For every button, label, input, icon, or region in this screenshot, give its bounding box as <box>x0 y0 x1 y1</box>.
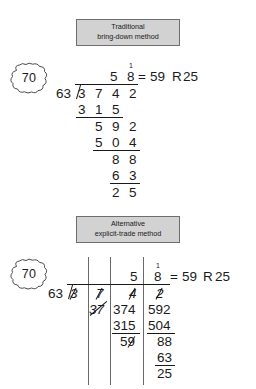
dividend-digit-4-top: 2 <box>129 87 137 101</box>
dividend-digit-2-top: 7 <box>95 87 103 101</box>
division-bar-bottom <box>67 284 170 285</box>
equals-sign-top: = <box>138 70 146 84</box>
page-badge-70-bottom: 70 <box>9 258 49 290</box>
column-rule-1 <box>88 257 89 385</box>
work-row-1-digit-1: 3 <box>78 103 86 117</box>
divisor-top: 63 <box>56 87 71 101</box>
carry-mark-bottom: 1 <box>156 262 160 269</box>
traded-digit-thousands: 3 <box>70 287 78 301</box>
ones-row-2: 504 <box>148 319 171 333</box>
result-quotient-bottom: 59 <box>182 270 197 284</box>
work-row-2-digit-3: 2 <box>129 120 137 134</box>
work-row-3-digit-1: 5 <box>95 136 103 150</box>
work-row-3-underline <box>93 150 140 151</box>
caption-line-1: Traditional <box>77 22 179 32</box>
division-bar-top <box>75 84 138 85</box>
result-remainder-bottom: 25 <box>215 270 230 284</box>
work-row-3-digit-3: 4 <box>129 136 137 150</box>
traded-digit-ones: 2 <box>156 287 164 301</box>
work-row-2-digit-1: 5 <box>95 120 103 134</box>
carry-mark-top: 1 <box>129 62 133 69</box>
dividend-digit-1-top: 3 <box>78 87 86 101</box>
quotient-digit-ones-bottom: 8 <box>154 270 162 284</box>
equals-sign-bottom: = <box>170 270 178 284</box>
caption-traditional: Traditional bring-down method <box>76 19 180 46</box>
quotient-digit-ones-top: 8 <box>127 70 135 84</box>
work-row-1-digit-2: 1 <box>95 103 103 117</box>
result-r-label-top: R <box>172 70 182 84</box>
ones-row-5: 25 <box>157 367 172 381</box>
work-row-5-underline <box>110 183 140 184</box>
quotient-digit-tens-top: 5 <box>110 70 118 84</box>
work-row-2-digit-2: 9 <box>112 120 120 134</box>
traded-digit-tens: 4 <box>129 287 137 301</box>
dividend-digit-3-top: 4 <box>112 87 120 101</box>
ones-row-1: 592 <box>148 303 171 317</box>
result-r-label-bottom: R <box>203 270 213 284</box>
work-row-5-digit-2: 3 <box>129 169 137 183</box>
page-badge-70-top: 70 <box>9 62 49 94</box>
work-row-4-digit-2: 8 <box>129 153 137 167</box>
quotient-digit-tens-bottom: 5 <box>130 270 138 284</box>
tens-row-3: 59 <box>120 335 135 349</box>
work-row-1-digit-3: 5 <box>112 103 120 117</box>
caption-alternative: Alternative explicit-trade method <box>76 216 180 243</box>
ones-row-4: 63 <box>157 351 172 365</box>
page-badge-label: 70 <box>9 62 49 94</box>
ones-row-3: 88 <box>157 335 172 349</box>
work-row-4-digit-1: 8 <box>112 153 120 167</box>
tens-row-2: 315 <box>113 319 136 333</box>
work-row-6-digit-2: 5 <box>129 186 137 200</box>
caption-line-2: bring-down method <box>77 32 179 42</box>
work-row-1-underline <box>76 117 123 118</box>
column-rule-3 <box>143 257 144 385</box>
traded-digit-hundreds: 7 <box>96 287 104 301</box>
work-row-5-digit-1: 6 <box>112 169 120 183</box>
caption-line-2: explicit-trade method <box>77 229 179 239</box>
column-rule-2 <box>110 257 111 385</box>
work-row-6-digit-1: 2 <box>112 186 120 200</box>
tens-row-1: 374 <box>113 303 136 317</box>
divisor-bottom: 63 <box>48 287 63 301</box>
result-remainder-top: 25 <box>183 70 198 84</box>
page-badge-label: 70 <box>9 258 49 290</box>
work-row-3-digit-2: 0 <box>112 136 120 150</box>
hundreds-row-1: 37 <box>89 303 104 317</box>
caption-line-1: Alternative <box>77 219 179 229</box>
result-quotient-top: 59 <box>150 70 165 84</box>
